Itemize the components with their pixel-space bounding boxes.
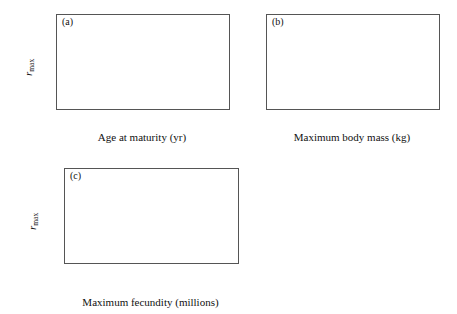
panel-b-points [240,0,457,150]
y-axis-r-symbol: r [26,226,38,230]
panel-c: (c) rmax Maximum fecundity (millions) [0,155,250,314]
panel-c-y-axis-title: rmax [26,213,40,230]
panel-b-x-axis-title: Maximum body mass (kg) [256,131,448,143]
y-axis-max-subscript: max [27,59,36,72]
panel-c-x-axis-title: Maximum fecundity (millions) [44,296,257,308]
y-axis-max-subscript: max [31,213,40,226]
panel-a-y-axis-title: rmax [22,59,36,76]
panel-c-points [0,155,250,314]
panel-b: (b) Maximum body mass (kg) [240,0,457,150]
panel-a-x-axis-title: Age at maturity (yr) [56,131,228,143]
y-axis-r-symbol: r [22,72,34,76]
panel-a: (a) rmax Age at maturity (yr) [0,0,240,150]
